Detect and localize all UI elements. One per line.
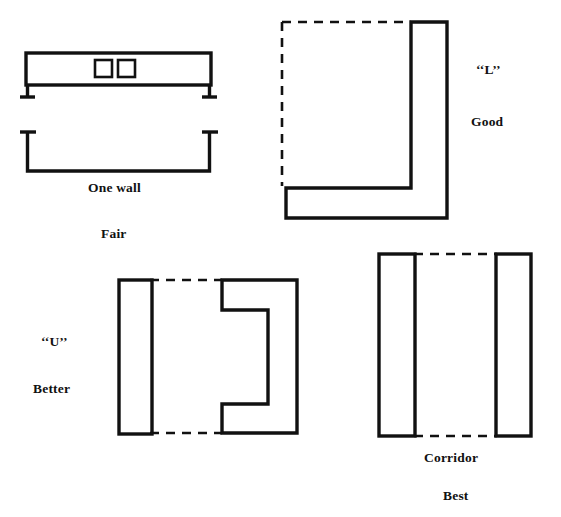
corridor-label: Corridor [424, 450, 478, 466]
u-shape-label: ‘‘U’’ [41, 334, 68, 350]
l-shape-counter-run [286, 22, 447, 218]
one-wall-opposite-wall-bracket [28, 132, 210, 171]
l-shape-drawing [282, 22, 447, 218]
u-shape-left-counter-bar [119, 280, 152, 434]
u-shape-rating: Better [33, 381, 70, 397]
one-wall-drawing [20, 53, 218, 171]
one-wall-appliance-square-left [95, 60, 112, 77]
u-shape-right-counter-run [222, 280, 297, 433]
corridor-right-counter-run [496, 254, 531, 436]
one-wall-label: One wall [88, 180, 141, 196]
diagram-page: One wall Fair ‘‘L’’ Good ‘‘U’’ Better Co… [0, 0, 561, 517]
corridor-left-counter-run [379, 254, 415, 436]
one-wall-rating: Fair [101, 226, 127, 242]
l-shape-label: ‘‘L’’ [476, 62, 501, 78]
one-wall-appliance-square-right [118, 60, 135, 77]
corridor-rating: Best [443, 488, 469, 504]
l-shape-rating: Good [471, 114, 503, 130]
u-shape-drawing [119, 280, 297, 434]
corridor-drawing [379, 254, 531, 436]
